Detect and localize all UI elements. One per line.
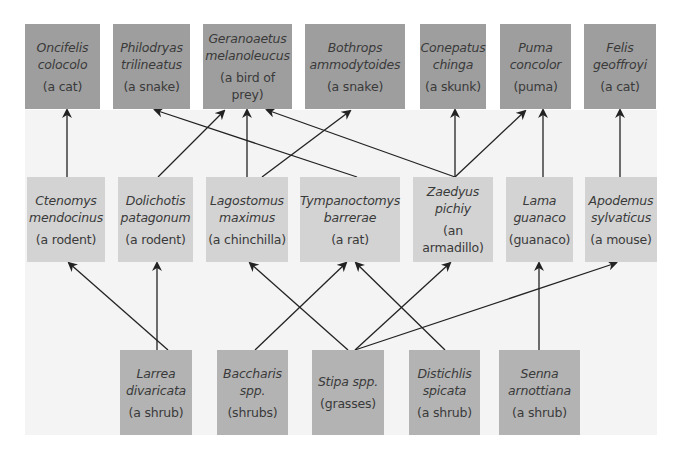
species-name-line2: spicata bbox=[423, 382, 467, 399]
species-name-line2: arnottiana bbox=[508, 382, 571, 399]
species-name-line2: trilineatus bbox=[121, 56, 182, 73]
species-name-line2: pichiy bbox=[435, 200, 471, 217]
common-name: (shrubs) bbox=[227, 404, 277, 421]
species-name-line2: concolor bbox=[510, 56, 562, 73]
common-name: (a rat) bbox=[331, 231, 369, 248]
node-stipa: Stipa spp.(grasses) bbox=[312, 350, 384, 435]
common-name: (a shrub) bbox=[417, 404, 472, 421]
common-name: (a rodent) bbox=[36, 231, 96, 248]
node-philodryas: Philodryastrilineatus(a snake) bbox=[113, 24, 190, 109]
node-ctenomys: Ctenomysmendocinus(a rodent) bbox=[27, 177, 105, 262]
node-zaedyus: Zaedyuspichiy(an armadillo) bbox=[413, 177, 493, 262]
common-name: (a snake) bbox=[327, 78, 383, 95]
species-name-line1: Distichlis bbox=[417, 365, 471, 382]
common-name: (a shrub) bbox=[512, 404, 567, 421]
common-name: (puma) bbox=[513, 78, 557, 95]
species-name-line1: Stipa spp. bbox=[318, 373, 378, 390]
node-bothrops: Bothropsammodytoides(a snake) bbox=[305, 24, 405, 109]
common-name: (a snake) bbox=[123, 78, 179, 95]
common-name: (a chinchilla) bbox=[208, 231, 286, 248]
node-puma: Pumaconcolor(puma) bbox=[500, 24, 571, 109]
node-felis: Felisgeoffroyi(a cat) bbox=[584, 24, 656, 109]
common-name: (a shrub) bbox=[128, 404, 183, 421]
species-name-line1: Conepatus bbox=[420, 39, 485, 56]
species-name-line1: Geranoaetus bbox=[208, 30, 286, 47]
common-name: (grasses) bbox=[320, 395, 376, 412]
node-baccharis: Baccharisspp.(shrubs) bbox=[217, 350, 288, 435]
species-name-line1: Tympanoctomys bbox=[300, 192, 400, 209]
node-apodemus: Apodemussylvaticus(a mouse) bbox=[585, 177, 657, 262]
species-name-line2: ammodytoides bbox=[310, 56, 401, 73]
species-name-line2: sylvaticus bbox=[591, 209, 651, 226]
node-senna: Sennaarnottiana(a shrub) bbox=[499, 350, 580, 435]
species-name-line1: Lama bbox=[523, 192, 557, 209]
node-dolichotis: Dolichotispatagonum(a rodent) bbox=[118, 177, 193, 262]
species-name-line1: Bothrops bbox=[328, 39, 383, 56]
common-name: (a cat) bbox=[43, 78, 82, 95]
species-name-line1: Lagostomus bbox=[210, 192, 284, 209]
species-name-line2: divaricata bbox=[126, 382, 186, 399]
common-name: (a rodent) bbox=[125, 231, 185, 248]
common-name: (an armadillo) bbox=[413, 222, 493, 256]
common-name: (a skunk) bbox=[425, 78, 481, 95]
species-name-line1: Baccharis bbox=[223, 365, 282, 382]
node-geranoaetus: Geranoaetusmelanoleucus(a bird of prey) bbox=[203, 24, 292, 109]
species-name-line2: chinga bbox=[433, 56, 474, 73]
node-lama: Lamaguanaco(guanaco) bbox=[506, 177, 573, 262]
species-name-line2: barrerae bbox=[324, 209, 376, 226]
species-name-line1: Philodryas bbox=[120, 39, 183, 56]
species-name-line1: Felis bbox=[606, 39, 633, 56]
species-name-line2: maximus bbox=[219, 209, 275, 226]
species-name-line2: patagonum bbox=[121, 209, 191, 226]
node-larrea: Larreadivaricata(a shrub) bbox=[120, 350, 192, 435]
node-tympanoctomys: Tympanoctomysbarrerae(a rat) bbox=[300, 177, 400, 262]
species-name-line2: spp. bbox=[240, 382, 266, 399]
common-name: (a mouse) bbox=[590, 231, 652, 248]
species-name-line1: Oncifelis bbox=[37, 39, 89, 56]
species-name-line1: Larrea bbox=[136, 365, 175, 382]
common-name: (a bird of prey) bbox=[203, 69, 292, 103]
node-oncifelis: Oncifeliscolocolo(a cat) bbox=[25, 24, 100, 109]
common-name: (guanaco) bbox=[509, 231, 571, 248]
species-name-line1: Apodemus bbox=[589, 192, 654, 209]
species-name-line1: Dolichotis bbox=[126, 192, 186, 209]
node-lagostomus: Lagostomusmaximus(a chinchilla) bbox=[206, 177, 288, 262]
species-name-line1: Zaedyus bbox=[427, 183, 479, 200]
species-name-line2: melanoleucus bbox=[205, 47, 290, 64]
species-name-line2: geoffroyi bbox=[593, 56, 647, 73]
species-name-line1: Senna bbox=[520, 365, 558, 382]
node-conepatus: Conepatuschinga(a skunk) bbox=[420, 24, 486, 109]
species-name-line1: Ctenomys bbox=[35, 192, 96, 209]
species-name-line2: guanaco bbox=[513, 209, 565, 226]
common-name: (a cat) bbox=[600, 78, 639, 95]
node-distichlis: Distichlisspicata(a shrub) bbox=[409, 350, 480, 435]
species-name-line2: colocolo bbox=[38, 56, 88, 73]
species-name-line1: Puma bbox=[518, 39, 553, 56]
species-name-line2: mendocinus bbox=[29, 209, 103, 226]
